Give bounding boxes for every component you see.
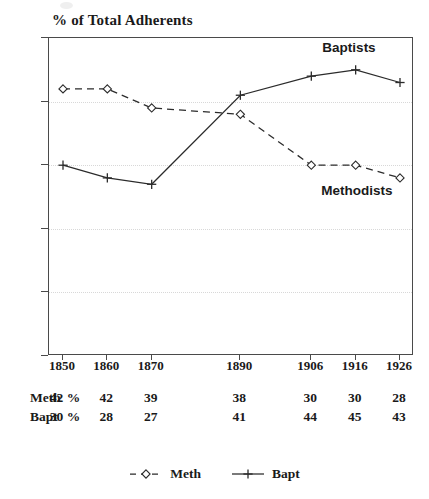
data-point-marker — [58, 161, 67, 170]
table-cell: 42 % — [50, 390, 80, 406]
series-bapt — [58, 65, 404, 189]
data-point-marker — [307, 161, 315, 169]
x-tick-label: 1926 — [386, 358, 412, 374]
y-tick-mark — [41, 37, 48, 38]
table-cell: 30 % — [50, 409, 80, 425]
legend-label: Bapt — [272, 466, 300, 482]
data-point-marker — [243, 469, 252, 478]
plus-marker-icon — [231, 467, 265, 481]
table-cell: 45 — [348, 409, 362, 425]
data-point-marker — [59, 85, 67, 93]
data-point-marker — [395, 78, 404, 87]
y-tick-mark — [41, 228, 48, 229]
x-tick-label: 1906 — [297, 358, 323, 374]
chart-page: % of Total Adherents 01020304050 Baptist… — [0, 0, 429, 499]
y-tick-mark — [41, 101, 48, 102]
series-line — [63, 70, 400, 185]
data-point-marker — [351, 65, 360, 74]
x-tick-label: 1860 — [93, 358, 119, 374]
data-point-marker — [142, 470, 150, 478]
x-tick-label: 1890 — [226, 358, 252, 374]
x-tick-label: 1850 — [49, 358, 75, 374]
chart-title: % of Total Adherents — [52, 12, 193, 29]
y-tick-mark — [41, 291, 48, 292]
table-cell: 30 — [304, 390, 318, 406]
x-tick-label: 1916 — [342, 358, 368, 374]
data-point-marker — [103, 85, 111, 93]
table-cell: 30 — [348, 390, 362, 406]
table-cell: 39 — [144, 390, 158, 406]
series-meth — [59, 85, 404, 182]
annotation-baptists: Baptists — [322, 40, 375, 55]
table-cell: 43 — [392, 409, 406, 425]
data-point-marker — [307, 72, 316, 81]
table-cell: 41 — [233, 409, 247, 425]
series-line — [63, 89, 400, 178]
chart-legend: MethBapt — [0, 466, 429, 482]
data-point-marker — [148, 104, 156, 112]
data-point-marker — [396, 174, 404, 182]
table-cell: 28 — [392, 390, 406, 406]
annotation-methodists: Methodists — [321, 183, 392, 198]
legend-item-meth[interactable]: Meth — [129, 466, 201, 482]
legend-label: Meth — [170, 466, 201, 482]
y-tick-mark — [41, 355, 48, 356]
table-cell: 28 — [100, 409, 114, 425]
data-point-marker — [236, 110, 244, 118]
table-cell: 27 — [144, 409, 158, 425]
data-point-marker — [103, 173, 112, 182]
scan-artifact — [60, 2, 73, 9]
table-cell: 38 — [233, 390, 247, 406]
x-tick-label: 1870 — [138, 358, 164, 374]
table-cell: 44 — [304, 409, 318, 425]
y-tick-mark — [41, 164, 48, 165]
data-point-marker — [352, 161, 360, 169]
diamond-marker-icon — [129, 467, 163, 481]
table-cell: 42 — [100, 390, 114, 406]
legend-item-bapt[interactable]: Bapt — [231, 466, 300, 482]
